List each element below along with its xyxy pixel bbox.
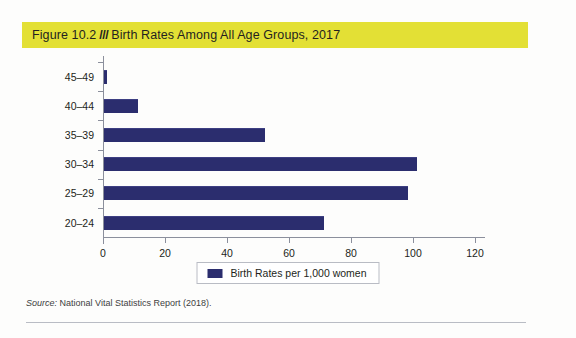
y-axis-tick: [98, 179, 103, 180]
x-axis-tick-label: 100: [404, 247, 422, 259]
bar-row: 45–49: [103, 62, 475, 91]
x-axis-tick: [165, 238, 166, 243]
x-axis-tick: [413, 238, 414, 243]
x-axis-tick-label: 120: [466, 247, 484, 259]
bar-row: 40–44: [103, 91, 475, 120]
x-axis-tick: [351, 238, 352, 243]
plot-region: 45–4940–4435–3930–3425–2920–24 020406080…: [103, 62, 475, 238]
y-axis-tick-label: 35–39: [65, 129, 94, 141]
y-axis-tick: [98, 208, 103, 209]
figure-title-band: Figure 10.2///Birth Rates Among All Age …: [22, 22, 528, 48]
figure-number: Figure 10.2: [32, 28, 96, 42]
bar: [104, 70, 107, 84]
bar-row: 30–34: [103, 150, 475, 179]
source-prefix: Source:: [26, 298, 57, 308]
y-axis-tick-label: 30–34: [65, 158, 94, 170]
x-axis-tick-label: 20: [159, 247, 171, 259]
source-text: National Vital Statistics Report (2018).: [60, 298, 212, 308]
bar-row: 25–29: [103, 179, 475, 208]
x-axis-tick: [475, 238, 476, 243]
x-axis-tick: [227, 238, 228, 243]
bar: [104, 186, 408, 200]
bottom-divider: [26, 322, 526, 323]
x-axis-tick-label: 80: [345, 247, 357, 259]
x-axis-tick-label: 60: [283, 247, 295, 259]
x-axis-tick-label: 40: [221, 247, 233, 259]
bar-row: 20–24: [103, 208, 475, 237]
bar: [104, 99, 138, 113]
x-axis-tick: [289, 238, 290, 243]
figure-separator: ///: [96, 28, 111, 42]
bar: [104, 128, 265, 142]
y-axis-tick: [98, 91, 103, 92]
y-axis-tick: [98, 120, 103, 121]
legend-label: Birth Rates per 1,000 women: [231, 267, 367, 279]
figure-title-text: Birth Rates Among All Age Groups, 2017: [111, 28, 340, 42]
bar: [104, 216, 324, 230]
y-axis-tick: [98, 150, 103, 151]
bar: [104, 157, 417, 171]
legend-swatch-icon: [208, 269, 223, 278]
y-axis-tick: [98, 62, 103, 63]
source-note: Source: National Vital Statistics Report…: [26, 298, 211, 308]
y-axis-tick-label: 45–49: [65, 71, 94, 83]
chart-legend: Birth Rates per 1,000 women: [197, 262, 380, 284]
figure-page: Figure 10.2///Birth Rates Among All Age …: [0, 0, 576, 338]
y-axis-tick-label: 25–29: [65, 187, 94, 199]
y-axis-tick-label: 40–44: [65, 100, 94, 112]
chart-area: 45–4940–4435–3930–3425–2920–24 020406080…: [22, 56, 528, 256]
x-axis-tick-label: 0: [100, 247, 106, 259]
figure-title: Figure 10.2///Birth Rates Among All Age …: [22, 28, 340, 42]
y-axis-tick-label: 20–24: [65, 217, 94, 229]
x-axis-tick: [103, 238, 104, 243]
bar-row: 35–39: [103, 120, 475, 149]
